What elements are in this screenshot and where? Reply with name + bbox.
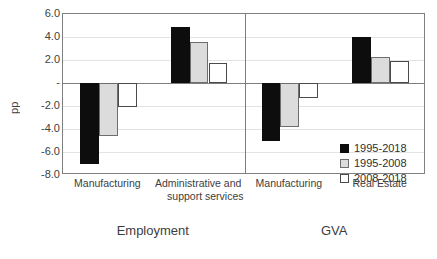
category-label: Administrative andsupport services: [153, 177, 244, 203]
group-label: GVA: [244, 222, 426, 240]
legend-item: 1995-2018: [340, 141, 407, 155]
bar: [190, 42, 209, 83]
legend-swatch-icon: [340, 159, 349, 168]
bar: [299, 83, 318, 98]
legend-label: 1995-2008: [354, 157, 407, 169]
category-label: Manufacturing: [62, 177, 153, 190]
y-tick-label: -: [24, 76, 60, 88]
group-label: Employment: [62, 222, 244, 240]
y-tick-label: 2.0: [24, 53, 60, 65]
category-label-line: Real Estate: [334, 177, 425, 190]
bar: [80, 83, 99, 164]
category-label: Real Estate: [334, 177, 425, 190]
y-tick-label: 4.0: [24, 30, 60, 42]
category-label-line: Manufacturing: [62, 177, 153, 190]
plot-area: 1995-20181995-20082008-2018: [62, 13, 425, 174]
legend-swatch-icon: [340, 144, 349, 153]
y-tick-label: -2.0: [24, 99, 60, 111]
bar: [371, 57, 390, 83]
bar: [171, 27, 190, 83]
y-tick-label: -6.0: [24, 145, 60, 157]
category-label-line: support services: [153, 190, 244, 203]
y-tick-label: 6.0: [24, 7, 60, 19]
category-label-line: Manufacturing: [244, 177, 335, 190]
legend-item: 1995-2008: [340, 156, 407, 170]
group-axis-labels: EmploymentGVA: [62, 222, 425, 246]
bar: [352, 37, 371, 83]
category-label-line: Administrative and: [153, 177, 244, 190]
bar: [209, 63, 228, 83]
bar: [99, 83, 118, 136]
bar-chart: pp 6.04.02.0--2.0-4.0-6.0-8.0 1995-20181…: [0, 0, 437, 259]
category-axis-labels: ManufacturingAdministrative andsupport s…: [62, 177, 425, 211]
bar: [262, 83, 281, 141]
y-axis-tick-labels: 6.04.02.0--2.0-4.0-6.0-8.0: [24, 12, 60, 174]
bar: [118, 83, 137, 107]
bar: [280, 83, 299, 127]
category-label: Manufacturing: [244, 177, 335, 190]
y-axis-title: pp: [2, 96, 26, 120]
bar: [390, 61, 409, 83]
y-tick-label: -4.0: [24, 122, 60, 134]
section-divider: [245, 14, 246, 173]
y-tick-label: -8.0: [24, 168, 60, 180]
legend-label: 1995-2018: [354, 142, 407, 154]
